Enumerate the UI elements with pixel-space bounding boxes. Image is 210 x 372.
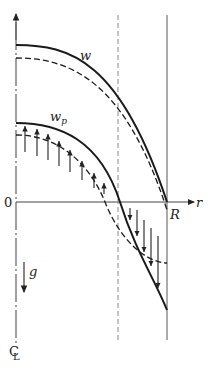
radius-label: R bbox=[169, 207, 180, 222]
w-dashed-curve bbox=[16, 58, 167, 210]
centerline-label: CL bbox=[9, 344, 20, 362]
velocity-profile-diagram: w wp 0 r R g CL bbox=[0, 0, 210, 372]
gravity-label: g bbox=[29, 264, 37, 279]
origin-label: 0 bbox=[4, 195, 12, 210]
w-label: w bbox=[80, 48, 91, 63]
w-solid-curve bbox=[16, 45, 167, 202]
relative-velocity-arrows-up bbox=[25, 126, 104, 194]
wp-solid-curve bbox=[16, 123, 167, 310]
r-axis-label: r bbox=[196, 195, 203, 210]
wp-label: wp bbox=[50, 109, 67, 126]
